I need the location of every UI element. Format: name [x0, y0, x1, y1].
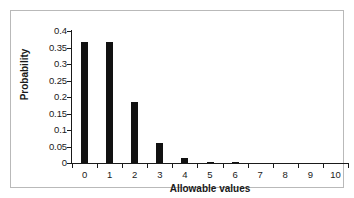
x-axis-title: Allowable values [72, 183, 348, 194]
x-tick-label: 10 [323, 170, 347, 180]
y-tick-label: 0.15 [21, 109, 67, 119]
x-tick-mark [248, 163, 249, 168]
bar [156, 143, 163, 163]
bar [81, 42, 88, 163]
chart-frame: 00.050.10.150.20.250.30.350.4 0123456789… [10, 10, 344, 188]
x-tick-label: 1 [98, 170, 122, 180]
x-tick-mark [348, 163, 349, 168]
x-tick-label: 7 [248, 170, 272, 180]
bar [207, 162, 214, 163]
x-tick-mark [298, 163, 299, 168]
x-tick-mark [223, 163, 224, 168]
x-axis-line [71, 163, 349, 164]
y-tick-label: 0.05 [21, 142, 67, 152]
x-tick-label: 3 [148, 170, 172, 180]
x-tick-mark [147, 163, 148, 168]
bar [232, 162, 239, 163]
x-tick-mark [197, 163, 198, 168]
bar [181, 158, 188, 163]
x-tick-mark [172, 163, 173, 168]
y-axis-title: Probability [19, 40, 30, 110]
y-tick-label: 0 [21, 158, 67, 168]
y-tick-label: 0.4 [21, 26, 67, 36]
x-tick-label: 2 [123, 170, 147, 180]
x-tick-mark [97, 163, 98, 168]
x-tick-label: 0 [73, 170, 97, 180]
x-tick-label: 6 [223, 170, 247, 180]
x-tick-label: 8 [273, 170, 297, 180]
bar-series [72, 31, 348, 163]
x-tick-label: 9 [298, 170, 322, 180]
x-tick-mark [72, 163, 73, 168]
x-tick-label: 5 [198, 170, 222, 180]
y-tick-label: 0.1 [21, 125, 67, 135]
x-tick-mark [273, 163, 274, 168]
bar [131, 102, 138, 163]
x-tick-mark [122, 163, 123, 168]
bar [106, 42, 113, 163]
x-tick-label: 4 [173, 170, 197, 180]
x-tick-mark [323, 163, 324, 168]
figure: 00.050.10.150.20.250.30.350.4 0123456789… [0, 0, 354, 198]
